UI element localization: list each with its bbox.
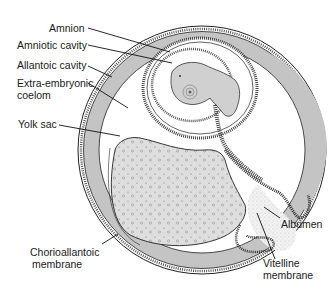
label-vitelline-2: membrane bbox=[263, 269, 313, 281]
label-vitelline-1: Vitelline bbox=[263, 257, 300, 269]
label-albumen: Albumen bbox=[281, 218, 322, 230]
label-extra-embryonic-coelom-2: coelom bbox=[17, 89, 51, 101]
label-yolk-sac: Yolk sac bbox=[18, 118, 57, 130]
label-amniotic-cavity: Amniotic cavity bbox=[17, 39, 87, 51]
label-chorioallantoic-1: Chorioallantoic bbox=[30, 246, 99, 258]
label-extra-embryonic-coelom-1: Extra-embryonic bbox=[17, 77, 93, 89]
label-chorioallantoic-2: membrane bbox=[32, 258, 82, 270]
label-amnion: Amnion bbox=[49, 22, 85, 34]
label-allantoic-cavity: Allantoic cavity bbox=[17, 59, 86, 71]
